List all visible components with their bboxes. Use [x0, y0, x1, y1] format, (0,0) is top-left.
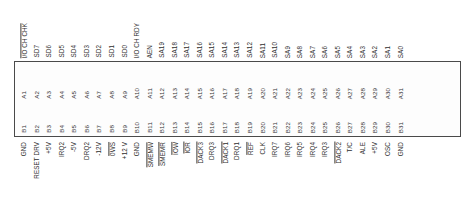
pin-b-label: B21: [272, 122, 278, 133]
top-signal-cell: SD2: [93, 3, 106, 58]
bottom-signal-label: CLK: [260, 142, 266, 155]
pin-a-cell: A12: [156, 68, 169, 99]
pin-b-label: B30: [385, 122, 391, 133]
top-signal-cell: SA13: [231, 3, 244, 58]
bottom-signal-label: OSC: [385, 142, 391, 156]
pin-b-cell: B28: [357, 103, 370, 133]
pin-a-label: A12: [159, 88, 165, 99]
pin-a-cell: A18: [231, 68, 244, 99]
pin-a-label: A7: [96, 91, 102, 99]
top-signal-cell: SD0: [118, 3, 131, 58]
top-signal-name-row: I/O CH CHKSD7SD6SD5SD4SD3SD2SD1SD0I/O CH…: [18, 3, 407, 58]
pin-b-label: B6: [84, 125, 90, 133]
top-signal-label: AEN: [147, 45, 153, 58]
bottom-signal-label: DACK1: [221, 142, 229, 164]
bottom-signal-label: IRQ7: [272, 142, 278, 157]
bottom-signal-cell: ALE: [357, 142, 370, 204]
pin-a-label: A22: [285, 88, 291, 99]
top-signal-cell: SA12: [244, 3, 257, 58]
top-signal-cell: SA14: [219, 3, 232, 58]
bottom-signal-cell: IOW: [169, 142, 182, 204]
top-signal-label: SD3: [84, 45, 90, 58]
bottom-signal-cell: T/C: [344, 142, 357, 204]
pin-a-label: A26: [335, 88, 341, 99]
pin-b-label: B28: [360, 122, 366, 133]
top-signal-label: I/O CH RDY: [134, 23, 140, 58]
pin-b-label: B19: [247, 122, 253, 133]
pin-a-cell: A19: [244, 68, 257, 99]
pin-a-cell: A15: [194, 68, 207, 99]
pin-a-cell: A4: [56, 68, 69, 99]
top-signal-label: SA16: [197, 42, 203, 58]
pin-a-cell: A28: [357, 68, 370, 99]
top-signal-cell: SA4: [344, 3, 357, 58]
pin-a-cell: A17: [219, 68, 232, 99]
bottom-signal-name-row: GNDRESET DRV+5VIRQ2-5VDRQ2-12V0WS+12 VGN…: [18, 142, 407, 204]
pin-a-label: A18: [234, 88, 240, 99]
pin-a-cell: A3: [43, 68, 56, 99]
pin-a-label: A10: [134, 88, 140, 99]
top-signal-cell: SD6: [43, 3, 56, 58]
top-signal-label: SD2: [96, 45, 102, 58]
top-signal-label: SA11: [260, 43, 266, 58]
pin-b-label: B23: [297, 122, 303, 133]
pin-a-label: A27: [347, 88, 353, 99]
pin-a-label: A3: [46, 91, 52, 99]
top-signal-label: SD5: [59, 45, 65, 58]
pin-a-label: A5: [71, 91, 77, 99]
top-signal-cell: SD5: [56, 3, 69, 58]
pin-b-label: B24: [310, 122, 316, 133]
pin-a-label: A24: [310, 88, 316, 99]
bottom-signal-label: DRQ1: [234, 142, 240, 160]
pin-b-label: B10: [134, 122, 140, 133]
top-signal-label: SA0: [398, 46, 404, 58]
pin-b-cell: B19: [244, 103, 257, 133]
bottom-signal-cell: IRQ3: [319, 142, 332, 204]
bottom-signal-cell: IRQ6: [281, 142, 294, 204]
bottom-signal-label: GND: [134, 142, 140, 156]
bottom-signal-cell: RESET DRV: [31, 142, 44, 204]
top-signal-cell: SD4: [68, 3, 81, 58]
pin-a-cell: A2: [31, 68, 44, 99]
bottom-signal-label: -12V: [96, 142, 102, 156]
bottom-signal-label: ALE: [360, 142, 366, 154]
bottom-signal-label: DACK2: [334, 142, 342, 164]
top-signal-cell: SA3: [357, 3, 370, 58]
top-signal-cell: SA19: [156, 3, 169, 58]
top-signal-cell: SA9: [281, 3, 294, 58]
pin-b-label: B27: [347, 122, 353, 133]
bottom-signal-cell: -12V: [93, 142, 106, 204]
top-signal-label: SA18: [172, 42, 178, 58]
pin-b-cell: B12: [156, 103, 169, 133]
pin-b-label: B17: [222, 122, 228, 133]
pin-b-label: B3: [46, 125, 52, 133]
bottom-signal-cell: +12 V: [118, 142, 131, 204]
top-signal-label: SA6: [322, 46, 328, 58]
pin-b-label: B2: [34, 125, 40, 133]
top-signal-label: SA15: [209, 42, 215, 58]
top-signal-cell: SD7: [31, 3, 44, 58]
top-signal-label: SA3: [360, 46, 366, 58]
top-signal-cell: SD3: [81, 3, 94, 58]
bottom-signal-label: IRQ4: [310, 142, 316, 157]
top-signal-label: I/O CH CHK: [20, 23, 28, 58]
pin-a-cell: A23: [294, 68, 307, 99]
bottom-signal-cell: IOR: [181, 142, 194, 204]
bottom-signal-cell: DRQ3: [206, 142, 219, 204]
pin-a-cell: A29: [369, 68, 382, 99]
bottom-signal-cell: +5V: [43, 142, 56, 204]
pin-a-label: A17: [222, 88, 228, 99]
top-signal-label: SA4: [347, 46, 353, 58]
top-signal-label: SA12: [247, 42, 253, 58]
bottom-signal-cell: DRQ2: [81, 142, 94, 204]
bottom-signal-cell: -5V: [68, 142, 81, 204]
pin-row-a: A1A2A3A4A5A6A7A8A9A10A11A12A13A14A15A16A…: [18, 68, 407, 99]
bottom-signal-label: IRQ5: [297, 142, 303, 157]
bottom-signal-cell: IRQ7: [269, 142, 282, 204]
pin-a-cell: A24: [307, 68, 320, 99]
pin-a-label: A11: [147, 88, 153, 99]
bottom-signal-cell: SMEMR: [156, 142, 169, 204]
pin-b-label: B1: [21, 125, 27, 133]
pin-a-cell: A10: [131, 68, 144, 99]
pin-a-label: A16: [209, 88, 215, 99]
